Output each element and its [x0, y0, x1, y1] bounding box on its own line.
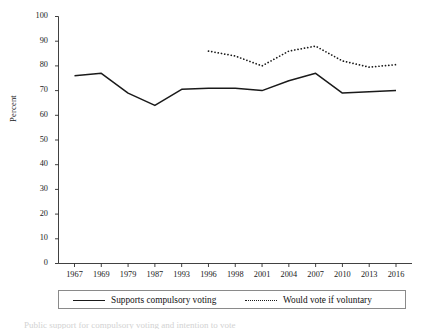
- y-tick-label: 50: [26, 136, 48, 144]
- y-tick-label: 60: [26, 111, 48, 119]
- line-chart-plot: [0, 0, 422, 329]
- y-tick-label: 90: [26, 37, 48, 45]
- x-tick-label: 2010: [327, 271, 357, 279]
- y-tick-label: 10: [26, 234, 48, 242]
- series-line-1: [208, 46, 396, 67]
- legend-entry-supports-compulsory-voting: Supports compulsory voting: [73, 291, 216, 308]
- x-tick-label: 1967: [60, 271, 90, 279]
- y-tick-label: 0: [26, 259, 48, 267]
- y-tick-label: 40: [26, 160, 48, 168]
- x-tick-label: 2016: [381, 271, 411, 279]
- x-tick-label: 1969: [86, 271, 116, 279]
- legend-entry-would-vote-if-voluntary: Would vote if voluntary: [245, 291, 372, 308]
- y-axis-label: Percent: [8, 108, 18, 122]
- series-line-0: [75, 73, 397, 105]
- legend-dotted-line-icon: [245, 295, 277, 305]
- x-tick-label: 2007: [301, 271, 331, 279]
- x-tick-label: 1993: [167, 271, 197, 279]
- x-tick-label: 1998: [220, 271, 250, 279]
- figure-caption: Public support for compulsory voting and…: [24, 320, 416, 329]
- x-tick-label: 1979: [113, 271, 143, 279]
- legend-label: Would vote if voluntary: [283, 295, 372, 305]
- figure: Percent 0102030405060708090100 196719691…: [0, 0, 422, 329]
- x-tick-label: 1996: [193, 271, 223, 279]
- legend-solid-line-icon: [73, 295, 105, 305]
- legend-label: Supports compulsory voting: [111, 295, 216, 305]
- y-tick-label: 70: [26, 86, 48, 94]
- y-tick-label: 20: [26, 210, 48, 218]
- y-tick-label: 80: [26, 61, 48, 69]
- x-tick-label: 2001: [247, 271, 277, 279]
- y-tick-label: 30: [26, 185, 48, 193]
- x-tick-label: 2004: [274, 271, 304, 279]
- y-tick-label: 100: [26, 12, 48, 20]
- x-tick-label: 2013: [354, 271, 384, 279]
- chart-legend: Supports compulsory voting Would vote if…: [58, 290, 406, 309]
- x-tick-label: 1987: [140, 271, 170, 279]
